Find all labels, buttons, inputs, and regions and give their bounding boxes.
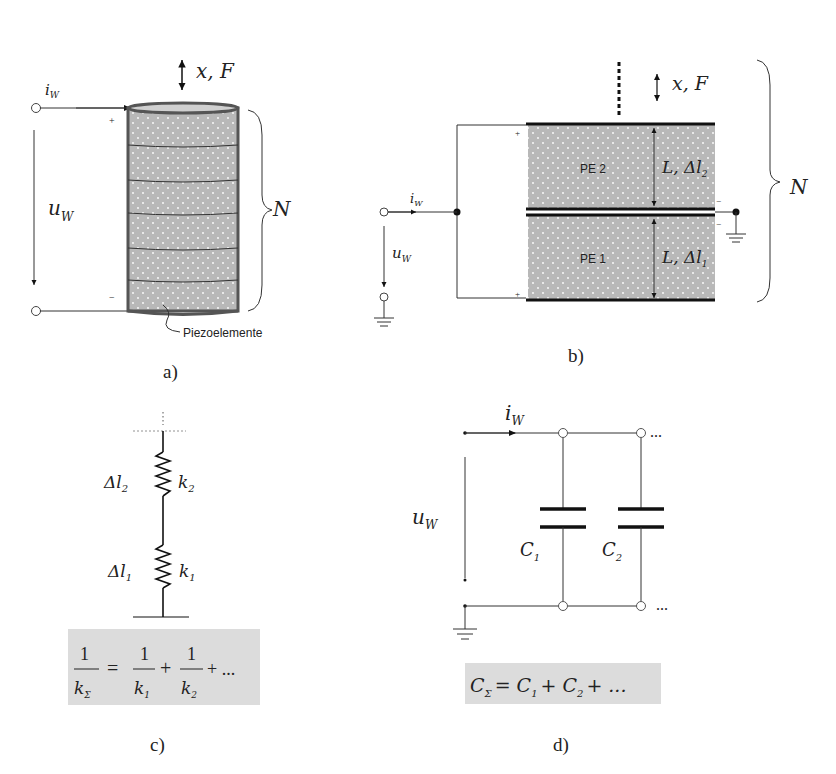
svg-text:1: 1: [187, 644, 196, 664]
svg-text:−: −: [716, 196, 721, 206]
current-label: iW: [410, 191, 423, 208]
motion-label: x, F: [196, 59, 235, 83]
panel-a-label: a): [163, 361, 178, 383]
dim2-label: L, Δl2: [661, 157, 708, 179]
node-top-2: [637, 429, 646, 438]
spring2-stiffness: k2: [178, 472, 195, 494]
pe1-label: PE 1: [580, 252, 606, 266]
terminal-top: [32, 104, 41, 113]
brace: [248, 110, 272, 311]
spring-1: [156, 545, 170, 588]
piezoelemente-label: Piezoelemente: [183, 326, 263, 340]
ellipsis-bottom: ...: [656, 596, 668, 613]
spring1-displacement: Δl1: [107, 561, 132, 583]
panel-b-circuit: [374, 60, 780, 326]
minus-sign: −: [109, 292, 115, 303]
svg-text:+: +: [515, 289, 520, 299]
voltage-label: uW: [412, 505, 439, 532]
plus-sign: +: [109, 115, 115, 126]
terminal-bottom: [32, 307, 41, 316]
spring2-displacement: Δl2: [103, 472, 128, 494]
ellipsis-top: ...: [650, 423, 662, 440]
dim1-label: L, Δl1: [661, 247, 708, 269]
panel-d-capacitors: [453, 429, 664, 640]
brace: [757, 60, 780, 302]
current-label: iW: [45, 81, 60, 100]
panel-c-label: c): [150, 734, 165, 756]
panel-d-label: d): [553, 734, 569, 756]
spring1-stiffness: k1: [179, 561, 196, 583]
panel-b-label: b): [568, 345, 584, 367]
pe2-label: PE 2: [580, 162, 606, 176]
panel-c-springs: [133, 412, 189, 617]
node-top-1: [559, 429, 568, 438]
stack-count-label: N: [272, 197, 292, 221]
motion-label: x, F: [672, 72, 709, 94]
current-label: iW: [505, 401, 525, 428]
node-bottom-1: [559, 602, 568, 611]
svg-text:1: 1: [140, 644, 149, 664]
svg-text:=: =: [107, 657, 118, 679]
spring-2: [156, 452, 170, 496]
voltage-label: uW: [48, 196, 75, 224]
cap2-label: C2: [602, 539, 622, 563]
cap1-label: C1: [520, 539, 540, 563]
svg-text:1: 1: [80, 644, 89, 664]
svg-text:+: +: [160, 657, 171, 679]
panel-a-piezo-stack: [32, 60, 273, 332]
stack-count-label: N: [789, 175, 809, 199]
svg-text:+: +: [515, 128, 520, 138]
node-bottom-2: [637, 602, 646, 611]
cylinder-top: [128, 103, 238, 113]
svg-text:−: −: [716, 219, 721, 229]
voltage-label: uW: [392, 244, 412, 264]
svg-text:+ ...: + ...: [207, 659, 235, 679]
